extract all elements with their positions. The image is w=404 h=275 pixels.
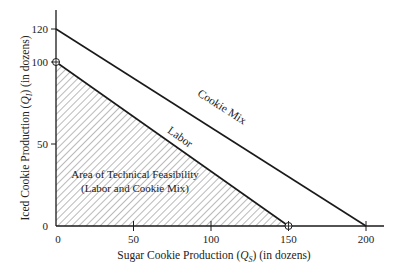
- x-axis-label: Sugar Cookie Production (QS) (in dozens): [117, 249, 311, 264]
- x-tick-label: 50: [128, 233, 140, 245]
- y-tick-label: 100: [32, 56, 49, 68]
- x-tick-label: 200: [358, 233, 375, 245]
- y-tick-label: 50: [37, 138, 49, 150]
- x-tick-label: 0: [55, 233, 61, 245]
- y-tick-label: 0: [43, 220, 49, 232]
- x-tick-label: 100: [203, 233, 220, 245]
- marker-y-intercept: [53, 59, 60, 66]
- marker-x-intercept: [285, 223, 292, 230]
- y-ticks: 120 100 50 0: [32, 23, 57, 232]
- cookie-mix-label: Cookie Mix: [196, 87, 249, 127]
- chart: 120 100 50 0 0 50 100 150 200 Cookie Mix…: [0, 0, 404, 275]
- region-sublabel: (Labor and Cookie Mix): [81, 182, 189, 195]
- region-label: Area of Technical Feasibility: [71, 168, 199, 180]
- x-tick-label: 150: [280, 233, 297, 245]
- y-tick-label: 120: [32, 23, 49, 35]
